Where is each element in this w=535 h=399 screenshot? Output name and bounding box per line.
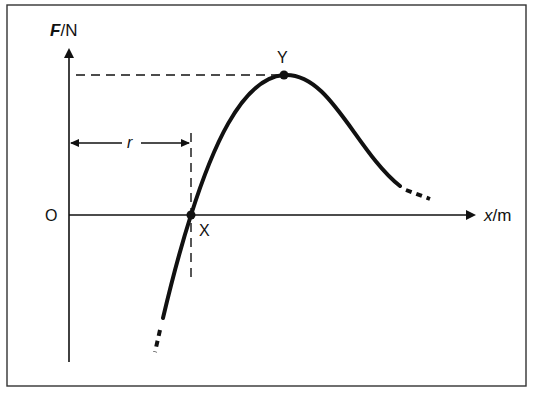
- point-x-marker: [187, 211, 196, 220]
- x-axis-unit: m: [497, 206, 511, 225]
- curve-extension-lower: [155, 330, 160, 352]
- point-x-label: X: [199, 222, 210, 239]
- force-distance-diagram: F/N x/m O r X Y: [0, 0, 535, 399]
- x-axis-label: x/m: [483, 206, 511, 225]
- y-axis-unit: N: [65, 21, 77, 40]
- figure-border: [7, 5, 526, 386]
- r-label: r: [127, 134, 133, 151]
- origin-label: O: [45, 207, 57, 224]
- force-curve: [163, 75, 400, 318]
- y-axis-symbol: F: [50, 21, 61, 40]
- point-y-marker: [280, 71, 289, 80]
- y-axis-label: F/N: [50, 21, 77, 40]
- point-y-label: Y: [277, 49, 288, 66]
- curve-extension-right: [406, 190, 430, 199]
- x-axis-symbol: x: [483, 206, 493, 225]
